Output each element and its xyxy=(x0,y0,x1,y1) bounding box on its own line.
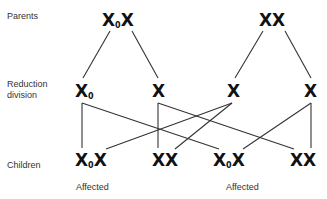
parent-genotype-2: XX xyxy=(259,11,285,29)
allele-base: X xyxy=(259,10,272,30)
line-parent2-gamete4 xyxy=(285,31,311,78)
row-label-reduction-line1: Reduction xyxy=(7,79,48,90)
row-label-children: Children xyxy=(7,160,41,171)
row-label-reduction-line2: division xyxy=(7,90,48,101)
allele-second: X xyxy=(272,10,285,30)
gamete-4: X xyxy=(304,82,317,100)
line-gamete4-child3 xyxy=(243,103,311,149)
line-parent2-gamete3 xyxy=(235,31,263,78)
line-gamete1-child3 xyxy=(82,103,219,149)
line-gamete3-child1 xyxy=(106,103,232,149)
row-label-parents: Parents xyxy=(7,11,38,22)
child-1-status: Affected xyxy=(76,182,109,193)
allele-base: X xyxy=(213,150,226,170)
allele-second: X xyxy=(303,150,316,170)
child-genotype-1: X0X xyxy=(75,151,107,175)
allele-second: X xyxy=(94,150,107,170)
line-gamete2-child4 xyxy=(158,103,294,149)
line-parent1-gamete2 xyxy=(132,31,158,78)
child-genotype-4: XX xyxy=(290,151,316,169)
line-gamete3-child2 xyxy=(175,103,232,149)
allele-base: X xyxy=(152,150,165,170)
allele-base: X xyxy=(152,81,165,101)
allele-second: X xyxy=(121,10,134,30)
allele-second: X xyxy=(232,150,245,170)
allele-base: X xyxy=(102,10,115,30)
allele-base: X xyxy=(290,150,303,170)
allele-base: X xyxy=(75,81,88,101)
gamete-3: X xyxy=(227,82,240,100)
row-label-reduction-division: Reduction division xyxy=(7,79,48,101)
gamete-2: X xyxy=(152,82,165,100)
child-3-status: Affected xyxy=(226,182,259,193)
child-genotype-3: X0X xyxy=(213,151,245,175)
allele-base: X xyxy=(304,81,317,101)
child-genotype-2: XX xyxy=(152,151,178,169)
gamete-1: X0 xyxy=(75,82,94,106)
allele-second: X xyxy=(165,150,178,170)
line-parent1-gamete1 xyxy=(83,31,110,78)
allele-subscript: 0 xyxy=(88,92,94,101)
allele-base: X xyxy=(75,150,88,170)
parent-genotype-1: X0X xyxy=(102,11,134,35)
allele-base: X xyxy=(227,81,240,101)
